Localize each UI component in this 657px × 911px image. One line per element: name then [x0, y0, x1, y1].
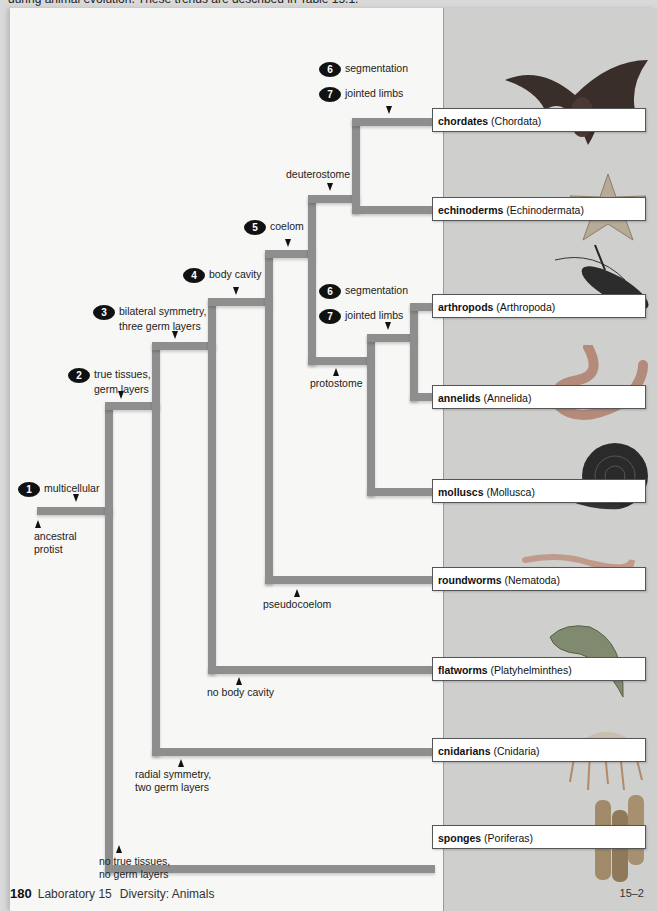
branch-trunk — [105, 408, 113, 873]
number-badge: 5 — [244, 220, 266, 235]
annotation-no-true-tissues: no true tissues,no germ layers — [99, 855, 170, 881]
character-5: 5coelom — [244, 220, 304, 235]
annotation-line: protist — [34, 543, 63, 555]
taxon-arthropods: arthropods (Arthropoda) — [432, 294, 646, 318]
character-text: bilateral symmetry, — [119, 305, 206, 317]
marker-down-icon — [285, 239, 291, 247]
annotation-pseudocoelom: pseudocoelom — [263, 598, 331, 611]
marker-down-icon — [73, 494, 79, 502]
character-text: multicellular — [44, 482, 99, 494]
taxon-common-name: chordates — [438, 115, 488, 127]
number-badge: 7 — [319, 87, 341, 102]
taxon-common-name: flatworms — [438, 664, 488, 676]
marker-up-icon — [35, 520, 41, 528]
branch-flatworms — [208, 666, 435, 674]
character-text: three germ layers — [119, 320, 201, 332]
taxon-common-name: roundworms — [438, 574, 502, 586]
branch-molluscs — [367, 488, 435, 496]
branch-node-4 — [208, 298, 272, 306]
number-badge: 7 — [319, 309, 341, 324]
character-text: true tissues, — [94, 368, 151, 380]
character-2: 2true tissues,germ layers — [68, 368, 151, 396]
branch-ecdysozoa — [410, 303, 418, 401]
taxon-scientific-name: (Echinodermata) — [506, 204, 584, 216]
branch-chordates — [352, 118, 435, 126]
branch-node-3 — [152, 342, 216, 350]
taxon-scientific-name: (Nematoda) — [505, 574, 560, 586]
snail-icon — [565, 438, 655, 518]
taxon-scientific-name: (Cnidaria) — [493, 745, 539, 757]
marker-up-icon — [294, 589, 300, 597]
annotation-line: radial symmetry, — [135, 768, 211, 780]
character-3: 3bilateral symmetry,three germ layers — [93, 305, 206, 333]
marker-down-icon — [118, 391, 124, 399]
taxon-scientific-name: (Annelida) — [484, 392, 532, 404]
taxon-scientific-name: (Arthropoda) — [496, 301, 555, 313]
number-badge: 4 — [183, 268, 205, 283]
annotation-radial-symmetry: radial symmetry,two germ layers — [135, 768, 211, 794]
branch-proto-split — [367, 334, 375, 496]
branch-eumetazoa — [152, 342, 160, 756]
character-text: jointed limbs — [345, 309, 403, 321]
marker-down-icon — [386, 106, 392, 114]
character-7-deut: 7jointed limbs — [319, 87, 403, 102]
marker-up-icon — [178, 759, 184, 767]
character-6-deut: 6segmentation — [319, 62, 408, 77]
taxon-common-name: sponges — [438, 832, 481, 844]
taxon-molluscs: molluscs (Mollusca) — [432, 479, 646, 503]
branch-body-cavity — [265, 250, 273, 584]
character-text: body cavity — [209, 268, 262, 280]
taxon-flatworms: flatworms (Platyhelminthes) — [432, 657, 646, 681]
marker-up-icon — [333, 368, 339, 376]
annotation-no-body-cavity: no body cavity — [207, 686, 274, 699]
lab-title: Laboratory 15 — [38, 887, 112, 901]
character-1: 1multicellular — [18, 482, 99, 497]
taxon-common-name: arthropods — [438, 301, 493, 313]
marker-down-icon — [233, 287, 239, 295]
taxon-scientific-name: (Mollusca) — [486, 486, 534, 498]
taxon-common-name: cnidarians — [438, 745, 491, 757]
marker-up-icon — [236, 677, 242, 685]
taxon-cnidarians: cnidarians (Cnidaria) — [432, 738, 646, 762]
cut-off-intro-text: during animal evolution. These trends ar… — [8, 0, 358, 6]
figure-reference: 15–2 — [620, 887, 644, 899]
taxon-scientific-name: (Poriferas) — [484, 832, 533, 844]
character-text: coelom — [270, 220, 304, 232]
bat-icon — [500, 55, 650, 150]
taxon-roundworms: roundworms (Nematoda) — [432, 567, 646, 591]
taxon-common-name: echinoderms — [438, 204, 503, 216]
number-badge: 6 — [319, 62, 341, 77]
branch-root — [37, 507, 113, 515]
marker-down-icon — [172, 331, 178, 339]
annotation-line: ancestral — [34, 530, 77, 542]
taxon-common-name: annelids — [438, 392, 481, 404]
branch-deut-split — [352, 118, 360, 213]
page-number: 180 — [10, 886, 32, 901]
character-6-proto: 6segmentation — [319, 284, 408, 299]
section-title: Diversity: Animals — [120, 887, 215, 901]
annotation-line: two germ layers — [135, 781, 209, 793]
annotation-ancestral-protist: ancestralprotist — [34, 530, 77, 556]
number-badge: 1 — [18, 482, 40, 497]
taxon-scientific-name: (Chordata) — [491, 115, 541, 127]
annotation-deuterostome: deuterostome — [286, 168, 350, 181]
marker-down-icon — [327, 183, 333, 191]
marker-down-icon — [385, 322, 391, 330]
branch-cnidarians — [152, 748, 435, 756]
branch-roundworms — [265, 576, 435, 584]
character-text: jointed limbs — [345, 87, 403, 99]
taxon-annelids: annelids (Annelida) — [432, 385, 646, 409]
number-badge: 3 — [93, 305, 115, 320]
annotation-line: no true tissues, — [99, 855, 170, 867]
branch-echinoderms — [352, 206, 435, 214]
number-badge: 2 — [68, 368, 90, 383]
annotation-protostome: protostome — [310, 377, 363, 390]
branch-bilateria — [208, 298, 216, 674]
number-badge: 6 — [319, 284, 341, 299]
character-text: segmentation — [345, 284, 408, 296]
taxon-common-name: molluscs — [438, 486, 484, 498]
taxon-chordates: chordates (Chordata) — [432, 108, 646, 132]
character-text: segmentation — [345, 62, 408, 74]
taxon-scientific-name: (Platyhelminthes) — [491, 664, 572, 676]
annotation-line: no germ layers — [99, 868, 168, 880]
